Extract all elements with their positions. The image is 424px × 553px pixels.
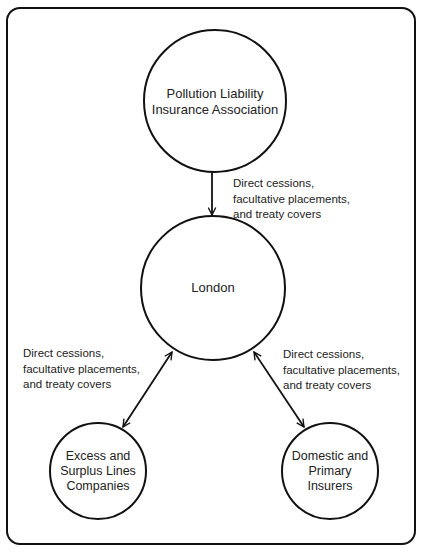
node-label-line: Excess and [66, 449, 131, 464]
node-label-line: Insurance Association [152, 102, 278, 118]
node-label-line: Pollution Liability [167, 86, 264, 102]
edge-label-line: and treaty covers [283, 378, 400, 394]
node-label-line: Companies [66, 479, 129, 494]
node-label-domestic: Domestic and Primary Insurers [284, 446, 376, 496]
node-label-line: Insurers [307, 479, 352, 494]
node-label-line: Primary [308, 464, 351, 479]
edge-label-line: Direct cessions, [23, 346, 140, 362]
edge-label-line: and treaty covers [23, 377, 140, 393]
edge-label-line: Direct cessions, [283, 347, 400, 363]
edge-label-line: facultative placements, [283, 363, 400, 379]
edge-label-plia-london: Direct cessions, facultative placements,… [233, 176, 350, 223]
edge-label-line: facultative placements, [23, 362, 140, 378]
node-label-excess: Excess and Surplus Lines Companies [52, 446, 144, 496]
edge-label-london-excess: Direct cessions, facultative placements,… [23, 346, 140, 393]
edge-label-london-domestic: Direct cessions, facultative placements,… [283, 347, 400, 394]
node-label-line: Domestic and [292, 449, 368, 464]
node-label-london: London [153, 279, 273, 297]
edge-label-line: Direct cessions, [233, 176, 350, 192]
node-label-line: London [191, 280, 234, 296]
node-label-line: Surplus Lines [60, 464, 136, 479]
edge-label-line: and treaty covers [233, 207, 350, 223]
edge-label-line: facultative placements, [233, 192, 350, 208]
node-label-plia: Pollution Liability Insurance Associatio… [144, 85, 286, 119]
